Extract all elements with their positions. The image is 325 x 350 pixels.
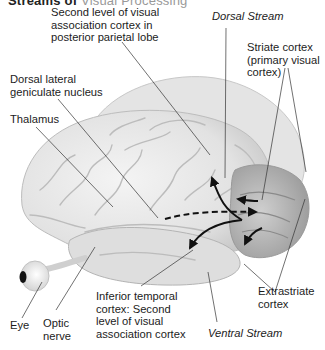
eye-illustration xyxy=(20,258,86,291)
label-optic-nerve: Optic nerve xyxy=(43,317,71,342)
label-extrastriate-cortex: Extrastriate cortex xyxy=(258,285,315,310)
label-thalamus: Thalamus xyxy=(10,113,59,126)
label-dorsal-lateral-geniculate: Dorsal lateral geniculate nucleus xyxy=(10,73,103,98)
label-striate-cortex: Striate cortex (primary visual cortex) xyxy=(247,41,320,79)
label-dorsal-stream: Dorsal Stream xyxy=(212,10,284,23)
label-ventral-stream: Ventral Stream xyxy=(208,327,282,340)
label-second-level-parietal: Second level of visual association corte… xyxy=(51,6,159,44)
label-eye: Eye xyxy=(10,319,29,332)
label-inferior-temporal-cortex: Inferior temporal cortex: Second level o… xyxy=(96,290,186,340)
